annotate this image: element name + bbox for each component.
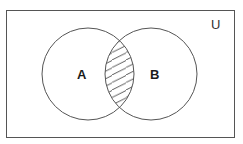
set-b-label: B [150, 67, 159, 82]
venn-diagram: U A B [0, 0, 243, 144]
universe-label: U [211, 17, 220, 32]
set-a-label: A [77, 67, 87, 82]
